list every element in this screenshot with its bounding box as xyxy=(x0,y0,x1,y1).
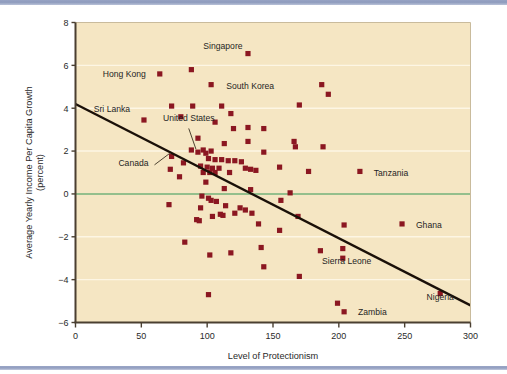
y-axis-tick-label: 6 xyxy=(63,61,68,71)
data-point-marker xyxy=(291,139,296,144)
chart-svg: 86420−2−4−6050100150200250300Level of Pr… xyxy=(0,0,507,374)
data-point-marker xyxy=(245,139,250,144)
y-axis-tick-label: 4 xyxy=(63,104,68,114)
data-point-marker xyxy=(157,71,162,76)
x-axis-tick-label: 150 xyxy=(265,331,280,341)
data-point-marker xyxy=(203,151,208,156)
data-point-marker xyxy=(228,111,233,116)
data-point-marker xyxy=(293,144,298,149)
data-point-marker xyxy=(357,169,362,174)
data-point-marker xyxy=(189,67,194,72)
data-point-marker xyxy=(239,159,244,164)
annotation-label: Nigeria xyxy=(427,292,454,302)
data-point-marker xyxy=(342,309,347,314)
data-point-marker xyxy=(297,102,302,107)
plot-background xyxy=(76,23,471,323)
y-axis-tick-label: 2 xyxy=(63,146,68,156)
data-point-marker xyxy=(399,221,404,226)
data-point-marker xyxy=(318,248,323,253)
annotation-label: United States xyxy=(163,113,215,123)
scatter-plot: 86420−2−4−6050100150200250300Level of Pr… xyxy=(0,0,507,374)
y-axis-tick-label: −4 xyxy=(58,275,68,285)
x-axis-tick-label: 300 xyxy=(463,331,478,341)
data-point-marker xyxy=(243,207,248,212)
data-point-marker xyxy=(220,213,225,218)
data-point-marker xyxy=(206,292,211,297)
data-point-marker xyxy=(253,168,258,173)
data-point-marker xyxy=(223,203,228,208)
annotation-label: Tanzania xyxy=(374,168,409,178)
x-axis-tick-label: 200 xyxy=(331,331,346,341)
annotation-label: Singapore xyxy=(203,41,242,51)
data-point-marker xyxy=(335,301,340,306)
data-point-marker xyxy=(206,156,211,161)
data-point-marker xyxy=(190,103,195,108)
data-point-marker xyxy=(306,169,311,174)
annotation-label: Sri Lanka xyxy=(94,104,131,114)
annotation-label: South Korea xyxy=(226,81,274,91)
annotation-label: Canada xyxy=(118,158,148,168)
data-point-marker xyxy=(203,180,208,185)
data-point-marker xyxy=(195,136,200,141)
data-point-marker xyxy=(222,186,227,191)
data-point-marker xyxy=(219,157,224,162)
data-point-marker xyxy=(297,274,302,279)
data-point-marker xyxy=(326,92,331,97)
data-point-marker xyxy=(210,214,215,219)
data-point-marker xyxy=(261,264,266,269)
x-axis-title: Level of Protectionism xyxy=(228,351,319,361)
data-point-marker xyxy=(248,167,253,172)
y-axis-tick-label: 8 xyxy=(63,18,68,28)
data-point-marker xyxy=(222,141,227,146)
data-point-marker xyxy=(259,245,264,250)
data-point-marker xyxy=(209,148,214,153)
annotation-label: Hong Kong xyxy=(103,69,146,79)
data-point-marker xyxy=(319,82,324,87)
x-axis-tick-label: 50 xyxy=(136,331,146,341)
x-axis-tick-label: 0 xyxy=(73,331,78,341)
x-axis-tick-label: 100 xyxy=(200,331,215,341)
y-axis-title-line1: Average Yearly Income Per Capita Growth xyxy=(24,86,34,258)
data-point-marker xyxy=(219,103,224,108)
data-point-marker xyxy=(228,250,233,255)
data-point-marker xyxy=(261,126,266,131)
data-point-marker xyxy=(197,218,202,223)
data-point-marker xyxy=(231,126,236,131)
data-point-marker xyxy=(340,246,345,251)
data-point-marker xyxy=(168,167,173,172)
figure-container: 86420−2−4−6050100150200250300Level of Pr… xyxy=(0,0,507,374)
y-axis-tick-label: −6 xyxy=(58,318,68,328)
data-point-marker xyxy=(199,193,204,198)
y-axis-tick-label: −2 xyxy=(58,232,68,242)
data-point-marker xyxy=(209,82,214,87)
data-point-marker xyxy=(288,190,293,195)
data-point-marker xyxy=(278,198,283,203)
annotation-label: Zambia xyxy=(358,307,387,317)
data-point-marker xyxy=(209,198,214,203)
data-point-marker xyxy=(243,166,248,171)
data-point-marker xyxy=(277,228,282,233)
data-point-marker xyxy=(249,211,254,216)
data-point-marker xyxy=(226,158,231,163)
data-point-marker xyxy=(245,125,250,130)
data-point-marker xyxy=(182,240,187,245)
data-point-marker xyxy=(277,165,282,170)
data-point-marker xyxy=(177,174,182,179)
data-point-marker xyxy=(214,199,219,204)
data-point-marker xyxy=(195,150,200,155)
data-point-marker xyxy=(169,103,174,108)
annotation-label: Ghana xyxy=(416,220,442,230)
data-point-marker xyxy=(141,117,146,122)
data-point-marker xyxy=(212,157,217,162)
data-point-marker xyxy=(207,252,212,257)
data-point-marker xyxy=(320,144,325,149)
data-point-marker xyxy=(189,147,194,152)
data-point-marker xyxy=(166,202,171,207)
data-point-marker xyxy=(227,170,232,175)
data-point-marker xyxy=(237,205,242,210)
annotation-label: Sierra Leone xyxy=(322,256,371,266)
data-point-marker xyxy=(245,51,250,56)
data-point-marker xyxy=(256,221,261,226)
data-point-marker xyxy=(198,205,203,210)
data-point-marker xyxy=(342,222,347,227)
